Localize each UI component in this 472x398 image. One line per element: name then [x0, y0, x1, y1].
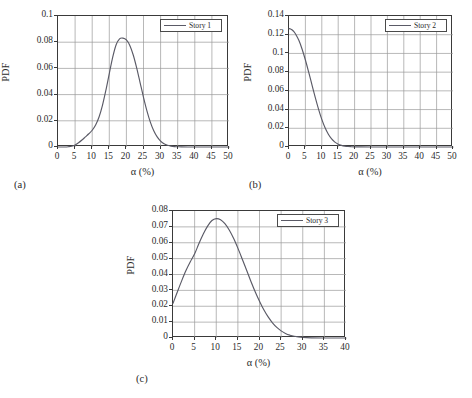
curve-story-1 [58, 16, 229, 147]
plot-area-a [57, 15, 228, 146]
y-tick-mark [54, 94, 57, 95]
x-tick-mark [91, 146, 92, 149]
y-tick-mark [169, 258, 172, 259]
x-tick-mark [280, 337, 281, 340]
y-tick-label: 0.02 [126, 300, 168, 309]
x-tick-label: 40 [333, 343, 357, 352]
curve-story-2 [289, 16, 453, 147]
y-axis-title-c: PDF [126, 245, 136, 285]
x-tick-mark [345, 337, 346, 340]
x-tick-mark [302, 337, 303, 340]
x-tick-mark [194, 337, 195, 340]
y-tick-label: 0.07 [126, 221, 168, 230]
y-tick-mark [285, 127, 288, 128]
y-tick-label: 0.12 [242, 29, 284, 38]
y-tick-mark [285, 90, 288, 91]
y-tick-mark [169, 242, 172, 243]
x-tick-mark [288, 146, 289, 149]
x-tick-mark [211, 146, 212, 149]
x-tick-mark [323, 337, 324, 340]
y-tick-mark [54, 120, 57, 121]
x-tick-mark [436, 146, 437, 149]
x-tick-label: 15 [225, 343, 249, 352]
y-tick-mark [285, 109, 288, 110]
x-tick-mark [354, 146, 355, 149]
curve-story-3 [173, 211, 346, 338]
legend-label-a: Story 1 [189, 22, 211, 30]
y-tick-mark [285, 15, 288, 16]
y-tick-label: 0.02 [242, 122, 284, 131]
y-tick-mark [54, 15, 57, 16]
x-tick-mark [452, 146, 453, 149]
y-tick-label: 0.08 [11, 36, 53, 45]
x-tick-label: 35 [311, 343, 335, 352]
x-tick-label: 50 [440, 152, 464, 161]
plot-area-c [172, 210, 345, 337]
y-tick-mark [285, 71, 288, 72]
x-tick-label: 20 [247, 343, 271, 352]
x-tick-mark [403, 146, 404, 149]
y-axis-title-b: PDF [243, 52, 253, 92]
y-tick-mark [169, 274, 172, 275]
x-tick-label: 25 [268, 343, 292, 352]
y-tick-label: 0.03 [126, 285, 168, 294]
x-tick-mark [321, 146, 322, 149]
x-tick-mark [108, 146, 109, 149]
y-tick-mark [54, 41, 57, 42]
x-tick-mark [177, 146, 178, 149]
legend-label-c: Story 3 [306, 217, 328, 225]
y-tick-label: 0 [242, 141, 284, 150]
x-tick-mark [143, 146, 144, 149]
x-tick-label: 10 [203, 343, 227, 352]
x-tick-label: 5 [182, 343, 206, 352]
x-tick-mark [237, 337, 238, 340]
y-tick-mark [285, 34, 288, 35]
y-tick-label: 0.1 [11, 10, 53, 19]
x-tick-mark [160, 146, 161, 149]
x-axis-title-c: α (%) [172, 358, 345, 368]
y-tick-label: 0 [126, 332, 168, 341]
y-tick-label: 0.04 [11, 89, 53, 98]
y-tick-label: 0.08 [126, 205, 168, 214]
legend-b: Story 2 [385, 19, 447, 32]
x-tick-label: 50 [216, 152, 240, 161]
y-tick-mark [169, 321, 172, 322]
x-tick-mark [337, 146, 338, 149]
x-tick-mark [57, 146, 58, 149]
plot-area-b [288, 15, 452, 146]
legend-line-swatch-a [164, 25, 186, 26]
x-tick-mark [419, 146, 420, 149]
x-tick-label: 0 [160, 343, 184, 352]
x-tick-mark [304, 146, 305, 149]
y-tick-label: 0.01 [126, 316, 168, 325]
panel-caption-c: (c) [136, 374, 148, 385]
x-tick-mark [370, 146, 371, 149]
x-tick-mark [259, 337, 260, 340]
legend-line-swatch-b [389, 25, 411, 26]
x-tick-mark [386, 146, 387, 149]
x-axis-title-b: α (%) [288, 167, 452, 177]
y-tick-mark [169, 210, 172, 211]
x-tick-mark [228, 146, 229, 149]
y-tick-label: 0.14 [242, 10, 284, 19]
x-tick-mark [125, 146, 126, 149]
panel-caption-b: (b) [249, 180, 261, 191]
legend-line-swatch-c [281, 220, 303, 221]
legend-c: Story 3 [277, 214, 339, 227]
x-tick-mark [74, 146, 75, 149]
y-tick-mark [54, 67, 57, 68]
x-tick-mark [215, 337, 216, 340]
x-tick-mark [194, 146, 195, 149]
y-axis-title-a: PDF [1, 52, 11, 92]
x-axis-title-a: α (%) [57, 167, 228, 177]
y-tick-label: 0.06 [11, 63, 53, 72]
legend-a: Story 1 [160, 19, 222, 32]
y-tick-label: 0.04 [242, 104, 284, 113]
panel-caption-a: (a) [14, 180, 26, 191]
y-tick-label: 0 [11, 141, 53, 150]
x-tick-mark [172, 337, 173, 340]
y-tick-mark [169, 226, 172, 227]
x-tick-label: 30 [290, 343, 314, 352]
y-tick-mark [285, 52, 288, 53]
y-tick-label: 0.02 [11, 115, 53, 124]
